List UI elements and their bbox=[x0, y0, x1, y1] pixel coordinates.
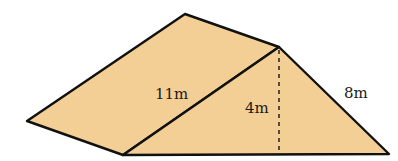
prism-diagram: 11m 4m 8m bbox=[0, 0, 398, 161]
label-height: 4m bbox=[245, 99, 269, 117]
label-side: 8m bbox=[344, 84, 368, 102]
label-slant-length: 11m bbox=[155, 85, 188, 103]
